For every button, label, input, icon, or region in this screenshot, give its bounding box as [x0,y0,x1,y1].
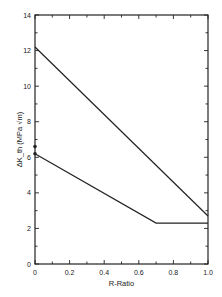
chart-canvas: 00.20.40.60.81.002468101214R-RatioΔK_th … [0,0,222,297]
x-tick-label: 0.8 [169,269,179,276]
data-series [33,47,208,223]
plot-frame [35,15,208,264]
y-tick-label: 10 [23,83,31,90]
y-tick-label: 8 [27,118,31,125]
x-tick-label: 0.6 [134,269,144,276]
x-tick-label: 0.4 [99,269,109,276]
y-tick-label: 2 [27,225,31,232]
y-tick-label: 0 [27,261,31,268]
axis-labels: 00.20.40.60.81.002468101214R-RatioΔK_th … [15,12,213,289]
y-tick-label: 14 [23,12,31,19]
series-line-lower [35,154,208,223]
y-tick-label: 12 [23,47,31,54]
data-point [33,152,37,156]
series-line-upper [35,47,208,216]
y-axis-title: ΔK_th (MPa √m) [15,111,24,167]
x-tick-label: 0.2 [65,269,75,276]
y-tick-label: 6 [27,154,31,161]
x-tick-label: 1.0 [203,269,213,276]
x-axis-title: R-Ratio [109,279,134,288]
x-tick-label: 0 [33,269,37,276]
data-point [33,145,37,149]
y-tick-label: 4 [27,189,31,196]
plot-border [35,15,208,264]
